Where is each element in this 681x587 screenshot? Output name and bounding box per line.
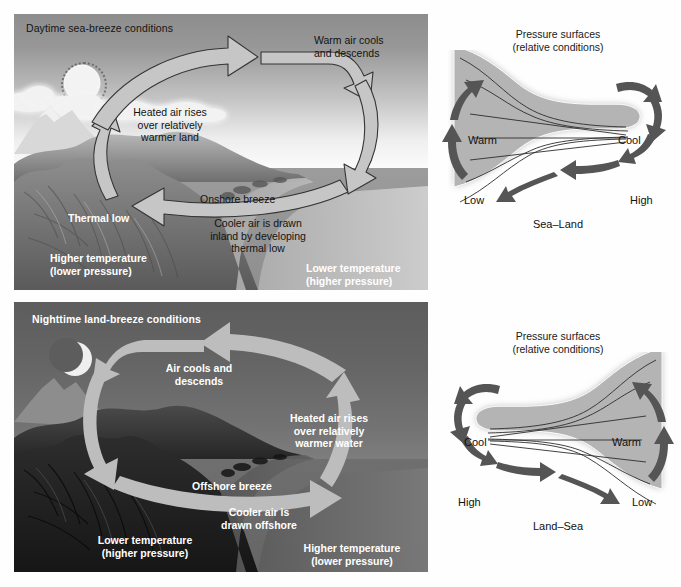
sea-land-breeze-figure: Daytime sea-breeze conditions Heated air… [0,0,681,587]
pressure-label-warm: Warm [468,134,497,146]
pressure-label-high: High [630,194,653,206]
arrow-downdraft [83,366,118,490]
label-heated-air-rises: Heated air rises over relatively warmer … [266,412,392,450]
label-land-temperature: Lower temperature (higher pressure) [80,534,210,559]
pressure-diagram-sea-land: Pressure surfaces (relative conditions) [440,28,676,238]
label-thermal-low: Thermal low [68,212,129,225]
arrow-downdraft [344,80,378,194]
pressure-label-cool: Cool [618,134,641,146]
pressure-diagram-land-sea: Pressure surfaces (relative conditions) [440,330,676,540]
label-sea-temperature: Higher temperature (lower pressure) [284,542,420,567]
pressure-label-cool: Cool [464,436,487,448]
panel-daytime-sea-breeze: Daytime sea-breeze conditions Heated air… [14,14,428,290]
label-onshore-breeze: Onshore breeze [200,193,275,206]
label-warm-air-cools: Warm air cools and descends [314,34,384,59]
label-cooler-air-drawn-offshore: Cooler air is drawn offshore [194,506,324,531]
panel-title-nighttime: Nighttime land-breeze conditions [32,313,201,325]
label-offshore-breeze: Offshore breeze [192,480,272,493]
panel-nighttime-land-breeze: Nighttime land-breeze conditions Air coo… [14,302,428,572]
arrow-upper-right [261,52,373,102]
pressure-label-high: High [458,496,481,508]
label-land-temperature: Higher temperature (lower pressure) [50,252,147,277]
pressure-label-warm: Warm [612,436,641,448]
panel-title-daytime: Daytime sea-breeze conditions [26,22,173,34]
pressure-label-low: Low [464,194,484,206]
pressure-caption: Land–Sea [440,520,676,532]
pressure-label-low: Low [632,496,652,508]
label-air-cools-descends: Air cools and descends [134,362,264,387]
label-sea-temperature: Lower temperature (higher pressure) [306,262,401,287]
pressure-caption: Sea–Land [440,218,676,230]
label-heated-air-rises: Heated air rises over relatively warmer … [100,106,240,144]
label-cooler-air-drawn-inland: Cooler air is drawn inland by developing… [178,217,338,255]
